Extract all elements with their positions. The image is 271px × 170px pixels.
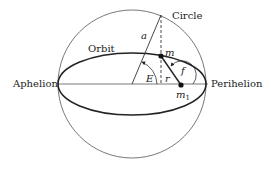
point-m1 bbox=[178, 82, 183, 87]
label-m: m bbox=[165, 47, 174, 58]
label-perihelion: Perihelion bbox=[211, 78, 263, 89]
label-m1: m1 bbox=[176, 89, 190, 102]
label-m1-base: m bbox=[176, 89, 185, 100]
label-orbit: Orbit bbox=[88, 43, 115, 54]
label-a: a bbox=[141, 30, 147, 41]
label-aphelion: Aphelion bbox=[12, 78, 58, 89]
label-r: r bbox=[165, 73, 171, 84]
orbit-diagram: Circle Orbit Aphelion Perihelion a m E r… bbox=[0, 0, 271, 170]
label-m1-sub: 1 bbox=[185, 94, 189, 102]
label-circle: Circle bbox=[172, 10, 202, 21]
point-m bbox=[158, 53, 163, 58]
label-E: E bbox=[145, 73, 154, 84]
label-f: f bbox=[180, 65, 187, 76]
